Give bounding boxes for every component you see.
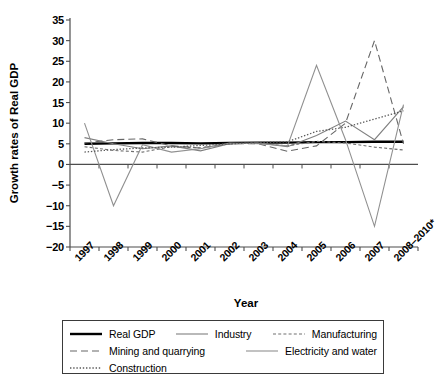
x-tick-label: 2002 (217, 239, 241, 263)
x-tick-label: 1998 (101, 239, 125, 263)
chart-legend: Real GDPIndustryManufacturingMining and … (62, 320, 384, 374)
x-axis-tick-labels: 1997199819992000200120022003200420052006… (0, 0, 446, 320)
x-tick-label: 2005 (304, 239, 328, 263)
x-axis-title-text: Year (188, 297, 258, 309)
legend-line-swatch (69, 329, 103, 339)
x-tick-label: 1999 (130, 239, 154, 263)
x-tick-label: 2007 (362, 239, 386, 263)
legend-label: Construction (109, 362, 167, 374)
legend-label: Manufacturing (312, 328, 377, 340)
legend-entry[interactable]: Manufacturing (272, 325, 377, 342)
x-tick-label: 2006 (333, 239, 357, 263)
legend-line-swatch (175, 329, 209, 339)
legend-label: Real GDP (109, 328, 155, 340)
legend-row: Mining and quarryingElectricity and wate… (69, 342, 377, 359)
legend-line-swatch (245, 346, 279, 356)
x-tick-label: 2001 (188, 239, 212, 263)
x-axis-title: Year (0, 297, 446, 309)
x-tick-label: 2000 (159, 239, 183, 263)
legend-label: Electricity and water (285, 345, 377, 357)
x-tick-label: 2004 (275, 239, 299, 263)
legend-label: Industry (215, 328, 252, 340)
legend-entry[interactable]: Industry (175, 325, 272, 342)
legend-entry[interactable]: Mining and quarrying (69, 342, 245, 359)
chart-figure: Growth rates of Real GDP 35302520151050−… (0, 0, 446, 388)
legend-entry[interactable]: Electricity and water (245, 342, 377, 359)
legend-line-swatch (69, 346, 103, 356)
legend-entry[interactable]: Construction (69, 359, 167, 376)
legend-line-swatch (69, 363, 103, 373)
legend-row: Construction (69, 359, 377, 376)
x-tick-label: 2008–2010* (391, 216, 438, 263)
legend-label: Mining and quarrying (109, 345, 205, 357)
x-tick-label: 1997 (72, 239, 96, 263)
legend-line-swatch (272, 329, 306, 339)
x-tick-label: 2003 (246, 239, 270, 263)
legend-entry[interactable]: Real GDP (69, 325, 175, 342)
legend-row: Real GDPIndustryManufacturing (69, 325, 377, 342)
